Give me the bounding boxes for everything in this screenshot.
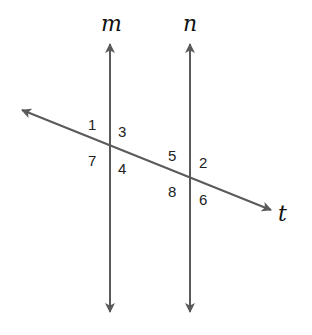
angle-4-label: 4 bbox=[118, 160, 126, 177]
line-n-label: n bbox=[183, 11, 197, 36]
angle-6-label: 6 bbox=[199, 191, 207, 208]
angle-8-label: 8 bbox=[168, 183, 176, 200]
angle-7-label: 7 bbox=[88, 152, 96, 169]
angle-5-label: 5 bbox=[168, 147, 176, 164]
angle-2-label: 2 bbox=[199, 154, 207, 171]
parallel-lines-diagram: m n t 1 3 7 4 5 2 8 6 bbox=[0, 0, 312, 335]
transversal-t bbox=[22, 110, 271, 210]
angle-1-label: 1 bbox=[88, 116, 96, 133]
transversal-t-label: t bbox=[278, 201, 287, 226]
angle-3-label: 3 bbox=[118, 123, 126, 140]
line-m-label: m bbox=[101, 11, 122, 36]
